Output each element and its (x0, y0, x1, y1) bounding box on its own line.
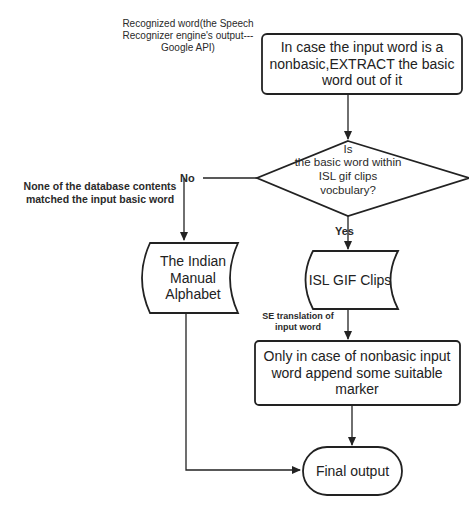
gif-clips-node-text: ISL GIF Clips (305, 254, 395, 306)
decision-is-text: Is (318, 143, 378, 157)
no-label: No (180, 172, 195, 185)
alphabet-node-text: The Indian Manual Alphabet (150, 246, 236, 310)
se-translation-annotation: SE translation of input word (253, 311, 343, 333)
input-word-label: Recognized word(the Speech Recognizer en… (108, 18, 268, 54)
decision-node-text: the basic word within ISL gif clips vocb… (290, 156, 406, 197)
append-marker-node-text: Only in case of nonbasic input word appe… (262, 343, 452, 403)
yes-label: Yes (335, 225, 354, 238)
no-branch-annotation: None of the database contents matched th… (20, 180, 180, 205)
final-output-text: Final output (305, 449, 400, 493)
extract-node-text: In case the input word is a nonbasic,EXT… (266, 36, 458, 92)
